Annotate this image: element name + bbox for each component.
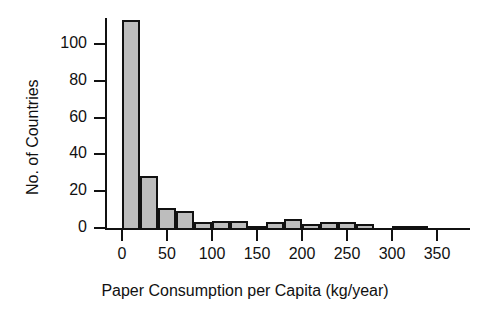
bars-layer xyxy=(0,0,490,322)
x-axis-tick xyxy=(256,230,258,241)
x-axis-tick xyxy=(211,230,213,241)
histogram-bar xyxy=(140,176,158,230)
x-axis-tick xyxy=(436,230,438,241)
x-axis-title: Paper Consumption per Capita (kg/year) xyxy=(0,282,490,300)
x-axis-tick xyxy=(391,230,393,241)
histogram-chart: 020406080100 No. of Countries 0501001502… xyxy=(0,0,490,322)
histogram-bar xyxy=(122,20,140,230)
x-axis-tick xyxy=(166,230,168,241)
x-axis-tick xyxy=(121,230,123,241)
x-axis-line xyxy=(105,228,470,230)
histogram-bar xyxy=(158,208,176,230)
x-axis-tick xyxy=(301,230,303,241)
x-axis-tick xyxy=(346,230,348,241)
x-axis-tick-label: 350 xyxy=(407,246,467,262)
